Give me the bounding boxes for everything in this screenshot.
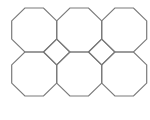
octagon-tiling-diagram [0, 0, 150, 120]
square-2 [89, 39, 115, 65]
octagons-group [12, 8, 147, 96]
square-1 [44, 39, 70, 65]
